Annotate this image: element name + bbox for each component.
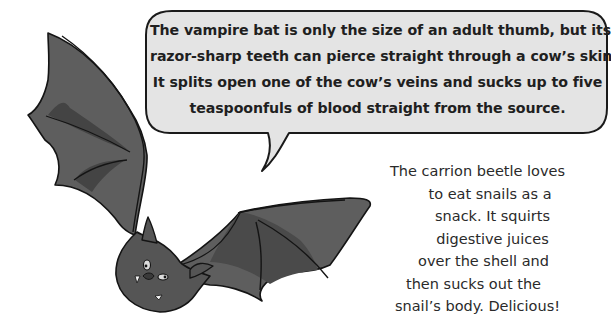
caption-line: to eat snails as a [350,183,605,206]
bubble-line: razor-sharp teeth can pierce straight th… [150,43,605,69]
speech-bubble-text: The vampire bat is only the size of an a… [150,17,605,121]
bubble-line: It splits open one of the cow’s veins an… [150,69,605,95]
caption-line: then sucks out the [350,273,605,296]
caption-line: snack. It squirts [350,205,605,228]
bubble-line: The vampire bat is only the size of an a… [150,17,605,43]
carrion-beetle-caption: The carrion beetle loves to eat snails a… [350,160,605,318]
bubble-line: teaspoonfuls of blood straight from the … [150,95,605,121]
caption-line: digestive juices [350,228,605,251]
caption-line: The carrion beetle loves [350,160,605,183]
caption-line: snail’s body. Delicious! [350,295,605,318]
caption-line: over the shell and [350,250,605,273]
